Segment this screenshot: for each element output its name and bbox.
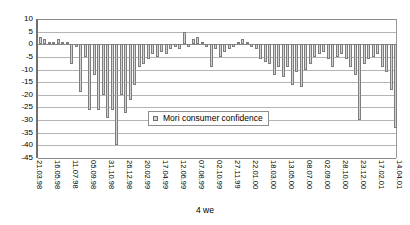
bar — [88, 44, 91, 110]
x-axis-title: 4 we — [0, 205, 410, 215]
bar — [390, 44, 393, 89]
y-tick-label--5: -5 — [26, 53, 33, 61]
x-tick-label-18.03.00: 18.03.00 — [269, 160, 277, 189]
y-tick-label--40: -40 — [21, 141, 33, 149]
bar-series-mori-consumer-confidence — [38, 19, 396, 158]
x-tick-label-26.12.98: 26.12.98 — [125, 160, 133, 189]
bar — [268, 44, 271, 64]
bar — [111, 44, 114, 110]
bar — [133, 44, 136, 84]
x-tick-label-05.09.98: 05.09.98 — [89, 160, 97, 189]
bar — [79, 44, 82, 92]
gridline--45 — [38, 158, 396, 159]
bar — [376, 44, 379, 54]
bar — [165, 44, 168, 54]
bar — [354, 44, 357, 74]
y-tick-label--15: -15 — [21, 78, 33, 86]
bar — [250, 44, 253, 47]
y-tick-label--20: -20 — [21, 91, 33, 99]
chart-container: 1050-5-10-15-20-25-30-35-40-45 Mori cons… — [0, 0, 410, 225]
x-tick-label-31.10.98: 31.10.98 — [107, 160, 115, 189]
x-tick-label-23.12.00: 23.12.00 — [359, 160, 367, 189]
bar — [372, 44, 375, 57]
bar — [349, 44, 352, 67]
x-tick-label-20.02.99: 20.02.99 — [143, 160, 151, 189]
plot-area — [37, 19, 397, 158]
bar — [385, 44, 388, 72]
x-tick-label-02.10.99: 02.10.99 — [215, 160, 223, 189]
bar — [39, 37, 42, 45]
bar — [151, 44, 154, 54]
x-tick-label-21.03.98: 21.03.98 — [35, 160, 43, 189]
bar — [169, 44, 172, 49]
bar — [129, 44, 132, 100]
bar — [286, 44, 289, 67]
bar — [295, 44, 298, 72]
bar — [223, 44, 226, 52]
bar — [106, 44, 109, 117]
legend: Mori consumer confidence — [148, 111, 269, 126]
bar — [120, 44, 123, 95]
bar — [246, 42, 249, 45]
x-tick-label-08.07.00: 08.07.00 — [305, 160, 313, 189]
bar — [84, 44, 87, 57]
x-tick-label-11.07.98: 11.07.98 — [71, 160, 79, 189]
bar — [291, 44, 294, 84]
y-tick-label-10: 10 — [24, 15, 33, 23]
bar — [192, 39, 195, 44]
bar — [237, 42, 240, 45]
bar — [327, 44, 330, 59]
bar — [300, 44, 303, 87]
bar — [183, 32, 186, 45]
x-tick-label-12.06.99: 12.06.99 — [179, 160, 187, 189]
bar — [282, 44, 285, 77]
bar — [52, 42, 55, 45]
bar — [336, 44, 339, 57]
bar — [381, 44, 384, 67]
bar — [264, 44, 267, 62]
bar — [232, 44, 235, 47]
x-tick-label-02.09.00: 02.09.00 — [323, 160, 331, 189]
y-tick-label--45: -45 — [21, 154, 33, 162]
bar — [174, 44, 177, 47]
bar — [210, 44, 213, 67]
x-tick-label-16.05.98: 16.05.98 — [53, 160, 61, 189]
y-axis-labels: 1050-5-10-15-20-25-30-35-40-45 — [0, 0, 37, 177]
bar — [304, 44, 307, 69]
bar — [367, 44, 370, 59]
bar — [102, 44, 105, 95]
bar — [340, 44, 343, 54]
bar — [318, 44, 321, 54]
bar — [142, 44, 145, 64]
bar — [309, 44, 312, 64]
bar — [358, 44, 361, 120]
bar — [70, 44, 73, 64]
bar — [138, 44, 141, 67]
bar — [43, 39, 46, 44]
x-tick-label-22.01.00: 22.01.00 — [251, 160, 259, 189]
y-tick-label--10: -10 — [21, 66, 33, 74]
x-axis-labels: 21.03.9816.05.9811.07.9805.09.9831.10.98… — [37, 160, 397, 205]
x-tick-label-27.11.99: 27.11.99 — [233, 160, 241, 189]
bar — [66, 42, 69, 45]
bar — [394, 44, 397, 127]
bar — [48, 42, 51, 45]
bar — [196, 37, 199, 45]
bar — [61, 42, 64, 45]
bar — [178, 44, 181, 49]
bar — [331, 44, 334, 67]
y-tick-label-5: 5 — [29, 28, 33, 36]
bar — [219, 44, 222, 57]
bar — [115, 44, 118, 145]
x-tick-label-07.08.99: 07.08.99 — [197, 160, 205, 189]
y-tick-label--35: -35 — [21, 129, 33, 137]
x-tick-label-17.04.99: 17.04.99 — [161, 160, 169, 189]
bar — [241, 39, 244, 44]
bar — [363, 44, 366, 64]
x-tick-label-13.05.00: 13.05.00 — [287, 160, 295, 189]
bar — [124, 44, 127, 112]
bar — [259, 44, 262, 59]
bar — [205, 44, 208, 47]
bar — [97, 44, 100, 110]
bar — [156, 44, 159, 57]
